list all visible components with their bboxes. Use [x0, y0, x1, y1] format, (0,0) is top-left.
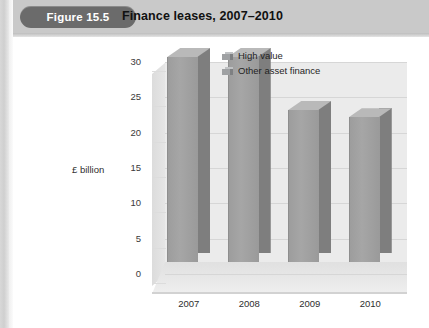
- legend-swatch-icon: [222, 52, 233, 60]
- y-tick-label: 0: [117, 269, 141, 279]
- y-axis-title: £ billion: [72, 164, 104, 175]
- gridline-depth: [152, 168, 166, 178]
- y-tick-label: 30: [117, 57, 141, 67]
- legend-swatch-icon: [222, 67, 233, 75]
- bar-side-face: [318, 101, 331, 253]
- plot-floor: [152, 262, 407, 294]
- bar-2008: [228, 48, 258, 262]
- bar-front-face: [288, 110, 319, 262]
- page-edge-strip: [0, 0, 9, 328]
- figure-title: Finance leases, 2007–2010: [122, 9, 283, 23]
- y-axis-tick-labels: 051015202530: [117, 37, 141, 328]
- bar-2009: [288, 101, 318, 262]
- y-tick-label: 10: [117, 198, 141, 208]
- x-tick-label: 2010: [347, 298, 393, 309]
- gridline-depth: [152, 203, 166, 213]
- gridline-depth: [152, 97, 166, 107]
- plot-floor-edge: [152, 292, 407, 294]
- y-tick-label: 25: [117, 92, 141, 102]
- legend-item-0: High value: [222, 49, 320, 62]
- bar-side-face: [379, 108, 392, 253]
- y-tick-label: 15: [117, 163, 141, 173]
- x-tick-label: 2009: [287, 298, 333, 309]
- gridline-depth: [152, 62, 166, 72]
- gridline-depth: [152, 274, 166, 284]
- bar-front-face: [167, 57, 198, 262]
- bar-side-face: [197, 48, 210, 253]
- legend-label-1: Other asset finance: [238, 65, 320, 76]
- gridline-depth: [152, 239, 166, 249]
- bar-2010: [349, 108, 379, 262]
- gridline-depth: [152, 133, 166, 143]
- x-tick-label: 2008: [226, 298, 272, 309]
- figure-number-badge: Figure 15.5: [20, 6, 136, 28]
- y-tick-label: 5: [117, 234, 141, 244]
- legend-item-1: Other asset finance: [222, 64, 320, 77]
- chart-legend: High value Other asset finance: [222, 49, 320, 79]
- bar-2007: [167, 48, 197, 262]
- y-tick-label: 20: [117, 128, 141, 138]
- figure-container: Figure 15.5 Finance leases, 2007–2010 05…: [0, 0, 429, 328]
- x-tick-label: 2007: [166, 298, 212, 309]
- chart-canvas: 051015202530 £ billion 2007200820092010 …: [13, 37, 429, 328]
- gridline: [165, 274, 407, 275]
- bar-front-face: [228, 57, 259, 262]
- plot-area: [152, 62, 407, 294]
- bar-front-face: [349, 117, 380, 262]
- legend-label-0: High value: [238, 50, 283, 61]
